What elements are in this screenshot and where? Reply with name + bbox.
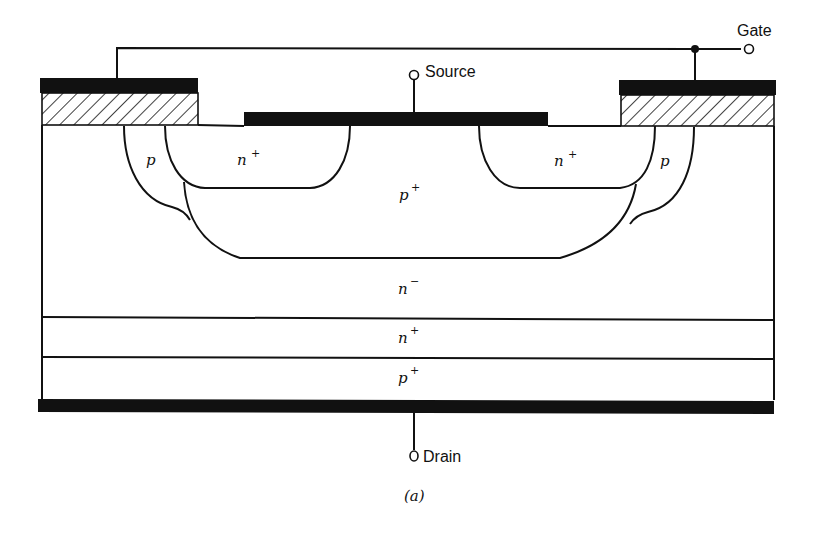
n-plus-buffer-label: n xyxy=(398,329,408,347)
left-gate-oxide xyxy=(42,93,198,125)
p-plus-body-label: p xyxy=(399,186,409,204)
drain-label: Drain xyxy=(423,448,461,465)
left-p-well xyxy=(124,126,190,220)
source-label: Source xyxy=(425,63,476,80)
p-plus-body xyxy=(184,182,636,258)
right-n-plus-sup: + xyxy=(568,148,577,161)
p-plus-substrate-sup: + xyxy=(410,364,419,377)
n-minus-drift-label: n xyxy=(398,280,408,298)
right-n-plus-region xyxy=(479,126,655,188)
p-plus-substrate-label: p xyxy=(398,369,408,387)
right-p-well xyxy=(630,127,694,224)
drain-terminal-icon xyxy=(410,451,418,461)
left-n-plus-sup: + xyxy=(251,147,260,160)
gate-junction-dot xyxy=(691,45,699,53)
left-gate-metal xyxy=(40,78,198,93)
source-metal xyxy=(244,112,548,126)
gate-terminal-icon xyxy=(745,45,754,54)
n-minus-drift-sup: − xyxy=(410,275,419,288)
right-gate-oxide xyxy=(621,95,774,126)
figure-caption: (a) xyxy=(404,487,425,505)
p-plus-body-sup: + xyxy=(411,181,420,194)
left-n-plus-label: n xyxy=(237,151,247,169)
source-terminal-icon xyxy=(410,71,419,80)
drain-metal xyxy=(38,399,774,414)
right-p-label: p xyxy=(660,152,670,170)
n-plus-buffer-sup: + xyxy=(410,324,419,337)
gate-label: Gate xyxy=(737,22,772,39)
left-p-label: p xyxy=(146,151,156,169)
right-n-plus-label: n xyxy=(554,152,564,170)
right-gate-metal xyxy=(619,80,776,95)
igbt-diagram: Gate Source Drain p p n + n + p + xyxy=(0,0,814,533)
